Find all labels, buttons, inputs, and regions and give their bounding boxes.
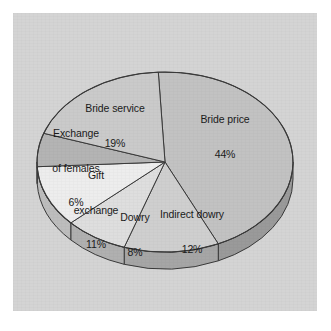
pie-chart xyxy=(0,0,331,331)
pie-group xyxy=(37,72,293,269)
figure: Bride price 44% Indirect dowry 12% Dowry… xyxy=(0,0,331,331)
